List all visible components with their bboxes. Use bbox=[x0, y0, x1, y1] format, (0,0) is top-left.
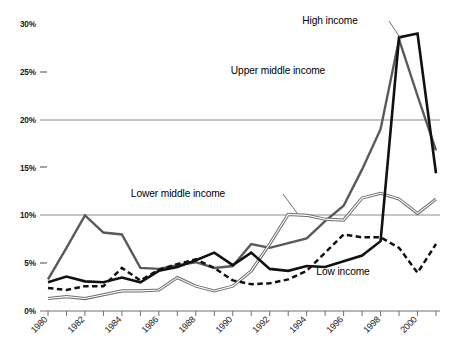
y-axis-label-20pct: 20% bbox=[20, 116, 37, 125]
x-axis-label-1980: 1980 bbox=[29, 314, 50, 335]
x-axis-label-1984: 1984 bbox=[103, 314, 124, 335]
leader-line-high-income bbox=[389, 21, 401, 39]
y-axis-ticks bbox=[40, 72, 47, 263]
x-axis-label-1988: 1988 bbox=[177, 314, 198, 335]
x-axis-label-1992: 1992 bbox=[250, 314, 271, 335]
series-annotations: High income Upper middle income Lower mi… bbox=[131, 15, 370, 277]
x-axis-label-2000: 2000 bbox=[398, 314, 419, 335]
y-axis-label-0pct: 0% bbox=[24, 307, 36, 316]
leader-line-lower-middle-income bbox=[283, 194, 297, 213]
x-axis-label-1994: 1994 bbox=[287, 314, 308, 335]
x-axis-ticks bbox=[48, 311, 436, 316]
annotation-lower-middle-income: Lower middle income bbox=[131, 188, 226, 199]
annotation-high-income: High income bbox=[302, 15, 358, 26]
y-axis-label-25pct: 25% bbox=[20, 68, 37, 77]
x-axis-label-1998: 1998 bbox=[361, 314, 382, 335]
x-axis-label-1986: 1986 bbox=[140, 314, 161, 335]
y-axis-label-30pct: 30% bbox=[20, 20, 37, 29]
x-axis-labels: 1980198219841986198819901992199419961998… bbox=[29, 314, 419, 335]
y-axis-label-5pct: 5% bbox=[24, 259, 36, 268]
annotation-low-income: Low income bbox=[316, 266, 370, 277]
chart-container: 0%5%10%15%20%25%30% 19801982198419861988… bbox=[0, 0, 457, 356]
y-axis-labels: 0%5%10%15%20%25%30% bbox=[20, 20, 37, 316]
x-axis-label-1996: 1996 bbox=[324, 314, 345, 335]
annotation-upper-middle-income: Upper middle income bbox=[231, 65, 326, 76]
x-axis-label-1982: 1982 bbox=[66, 314, 87, 335]
x-axis-label-1990: 1990 bbox=[214, 314, 235, 335]
y-axis-label-15pct: 15% bbox=[20, 164, 37, 173]
y-axis-label-10pct: 10% bbox=[20, 211, 37, 220]
line-chart: 0%5%10%15%20%25%30% 19801982198419861988… bbox=[0, 0, 457, 356]
